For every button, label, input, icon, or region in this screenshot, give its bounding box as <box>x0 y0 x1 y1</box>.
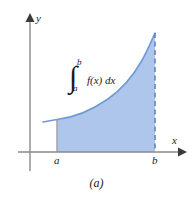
figure-caption: (a) <box>0 176 193 191</box>
x-axis-arrow-icon <box>178 148 187 157</box>
x-tick-label-a: a <box>54 155 60 166</box>
integral-annotation: b ∫ a f(x) dx <box>68 58 115 94</box>
integrand-expression: f(x) dx <box>87 74 115 86</box>
x-tick-label-b: b <box>152 155 158 166</box>
x-axis-label: x <box>172 135 177 146</box>
y-axis-label: y <box>36 13 41 24</box>
y-axis-arrow-icon <box>26 13 35 22</box>
plot-canvas <box>0 0 193 199</box>
integral-area-figure: b ∫ a f(x) dx y x a b (a) <box>0 0 193 199</box>
integral-upper-limit: b <box>77 58 82 67</box>
integral-sign-group: b ∫ a <box>68 58 84 94</box>
integral-lower-limit: a <box>73 84 78 93</box>
